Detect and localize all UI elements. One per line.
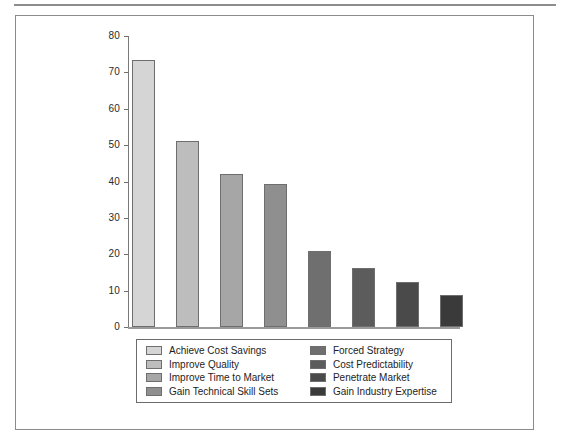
legend-swatch-icon — [310, 373, 326, 382]
legend-column-right: Forced StrategyCost PredictabilityPenetr… — [308, 344, 451, 398]
top-divider-rule — [14, 4, 556, 6]
legend-item: Improve Quality — [146, 358, 308, 372]
legend-item: Achieve Cost Savings — [146, 344, 308, 358]
legend-swatch-icon — [146, 387, 162, 396]
legend-swatch-icon — [146, 360, 162, 369]
legend-item: Improve Time to Market — [146, 371, 308, 385]
legend-item-label: Improve Quality — [169, 359, 239, 370]
figure-page: 80706050403020100 Achieve Cost SavingsIm… — [0, 0, 563, 446]
legend-item-label: Improve Time to Market — [169, 372, 274, 383]
legend-item: Penetrate Market — [310, 371, 451, 385]
legend-column-left: Achieve Cost SavingsImprove QualityImpro… — [137, 344, 308, 398]
legend-item: Cost Predictability — [310, 358, 451, 372]
legend-item: Forced Strategy — [310, 344, 451, 358]
legend-swatch-icon — [310, 360, 326, 369]
legend-item-label: Gain Technical Skill Sets — [169, 386, 278, 397]
legend-item-label: Gain Industry Expertise — [333, 386, 437, 397]
legend-item: Gain Technical Skill Sets — [146, 385, 308, 399]
chart-legend: Achieve Cost SavingsImprove QualityImpro… — [136, 339, 452, 403]
legend-item-label: Achieve Cost Savings — [169, 345, 266, 356]
legend-swatch-icon — [146, 346, 162, 355]
legend-item-label: Cost Predictability — [333, 359, 413, 370]
legend-swatch-icon — [310, 346, 326, 355]
legend-swatch-icon — [310, 387, 326, 396]
legend-item-label: Penetrate Market — [333, 372, 410, 383]
legend-swatch-icon — [146, 373, 162, 382]
legend-item: Gain Industry Expertise — [310, 385, 451, 399]
legend-item-label: Forced Strategy — [333, 345, 404, 356]
